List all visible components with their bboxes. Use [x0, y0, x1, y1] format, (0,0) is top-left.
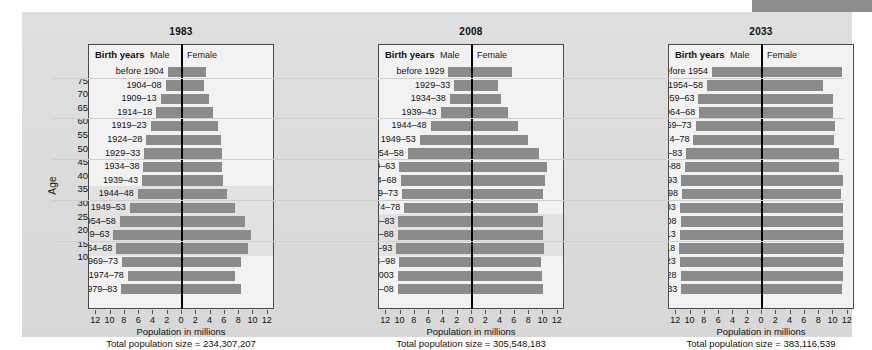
birth-year-label: 1974–78: [89, 269, 124, 283]
x-axis-tick: [442, 310, 443, 314]
x-axis-tick: [210, 310, 211, 314]
x-axis-tick: [95, 310, 96, 314]
female-bar: [182, 67, 206, 77]
birth-year-label: 1929–33: [415, 79, 450, 93]
male-bar: [682, 189, 762, 199]
male-bar: [122, 257, 182, 267]
birth-year-label: 1929–33: [105, 147, 140, 161]
x-axis-tick-label: 12: [90, 315, 100, 325]
female-bar: [182, 148, 222, 158]
male-bar: [680, 203, 762, 213]
female-bar: [762, 162, 839, 172]
zero-axis-line: [761, 44, 763, 309]
birth-year-label: 1969–73: [378, 187, 398, 201]
x-axis-tick: [224, 310, 225, 314]
female-bar: [762, 284, 842, 294]
x-axis-tick-label: 2: [483, 315, 488, 325]
male-bar: [156, 107, 182, 117]
female-bar: [762, 203, 843, 213]
pyramid-panel-2008: 2008Birth yearsMaleFemalebefore 19291929…: [378, 26, 564, 326]
x-axis-tick-label: 8: [526, 315, 531, 325]
birth-year-label: 1934–38: [104, 160, 139, 174]
x-axis-tick-label: 2: [773, 315, 778, 325]
x-axis-tick-label: 6: [136, 315, 141, 325]
male-bar: [130, 203, 182, 213]
female-bar: [182, 162, 222, 172]
male-bar: [401, 175, 472, 185]
female-bar: [472, 67, 512, 77]
female-bar: [472, 175, 545, 185]
female-bar: [182, 135, 221, 145]
female-bar: [762, 257, 843, 267]
male-bar: [686, 148, 762, 158]
birth-year-label: 1949–53: [91, 201, 126, 215]
x-axis-tick-label: 8: [816, 315, 821, 325]
x-axis-tick-label: 4: [730, 315, 735, 325]
female-bar: [472, 80, 498, 90]
birth-year-label: 1964–68: [378, 174, 397, 188]
female-bar: [182, 284, 241, 294]
female-bar: [182, 80, 204, 90]
birth-year-label: 1989–93: [668, 174, 677, 188]
male-bar: [685, 162, 762, 172]
x-axis-tick-label: 2: [454, 315, 459, 325]
birth-year-label: 1904–08: [127, 79, 162, 93]
birth-year-label: 1979–83: [668, 147, 682, 161]
male-bar: [681, 216, 762, 226]
x-axis-tick-label: 12: [842, 315, 852, 325]
female-bar: [472, 189, 543, 199]
birth-year-label: 1949–53: [381, 133, 416, 147]
x-axis-tick-label: 8: [701, 315, 706, 325]
x-axis-tick-label: 0: [758, 315, 763, 325]
x-axis-tick: [690, 310, 691, 314]
female-bar: [182, 175, 223, 185]
male-bar: [420, 135, 472, 145]
female-bar: [762, 243, 844, 253]
female-bar: [472, 162, 547, 172]
total-population-label: Total population size = 383,116,539: [648, 338, 872, 349]
x-axis-tick-label: 2: [193, 315, 198, 325]
birth-year-label: 1969–73: [668, 119, 692, 133]
female-bar: [472, 271, 542, 281]
birth-year-label: 1999–2003: [378, 269, 394, 283]
male-bar: [398, 271, 472, 281]
x-axis-tick: [718, 310, 719, 314]
male-bar: [399, 257, 472, 267]
female-bar: [182, 203, 235, 213]
x-axis-tick-label: 0: [468, 315, 473, 325]
male-bar: [398, 284, 472, 294]
x-axis-tick-label: 4: [787, 315, 792, 325]
male-bar: [441, 107, 472, 117]
birth-year-label: 1939–43: [103, 174, 138, 188]
birth-year-label: 1969–73: [88, 255, 118, 269]
x-axis-tick: [471, 310, 472, 314]
male-bar: [166, 80, 182, 90]
x-axis-tick: [818, 310, 819, 314]
birth-year-label: 1979–83: [378, 215, 394, 229]
x-axis: 12108642024681012Population in millionsT…: [668, 310, 854, 350]
female-bar: [762, 135, 834, 145]
birth-year-label: 1954–58: [378, 147, 404, 161]
panel-year-title: 2033: [668, 26, 854, 37]
x-axis-tick: [761, 310, 762, 314]
birth-year-label: 1924–28: [107, 133, 142, 147]
female-bar: [762, 216, 843, 226]
x-axis-tick-label: 4: [207, 315, 212, 325]
male-bar: [168, 67, 182, 77]
female-bar: [182, 257, 241, 267]
age-guide-line: [52, 241, 844, 242]
male-bar: [399, 162, 472, 172]
x-axis-tick-label: 12: [380, 315, 390, 325]
x-axis-tick: [804, 310, 805, 314]
x-axis-tick-label: 12: [552, 315, 562, 325]
x-axis-tick: [542, 310, 543, 314]
population-pyramid-figure: Age 80+75–7970–7465–6960–6455–5950–5445–…: [0, 0, 872, 350]
birth-year-label: 1974–78: [668, 133, 689, 147]
x-axis-tick: [832, 310, 833, 314]
female-bar: [182, 230, 251, 240]
birth-year-label: 1944–48: [392, 119, 427, 133]
female-bar: [762, 230, 843, 240]
birth-year-label: 1989–93: [378, 242, 392, 256]
x-axis-tick: [514, 310, 515, 314]
male-bar: [681, 175, 762, 185]
